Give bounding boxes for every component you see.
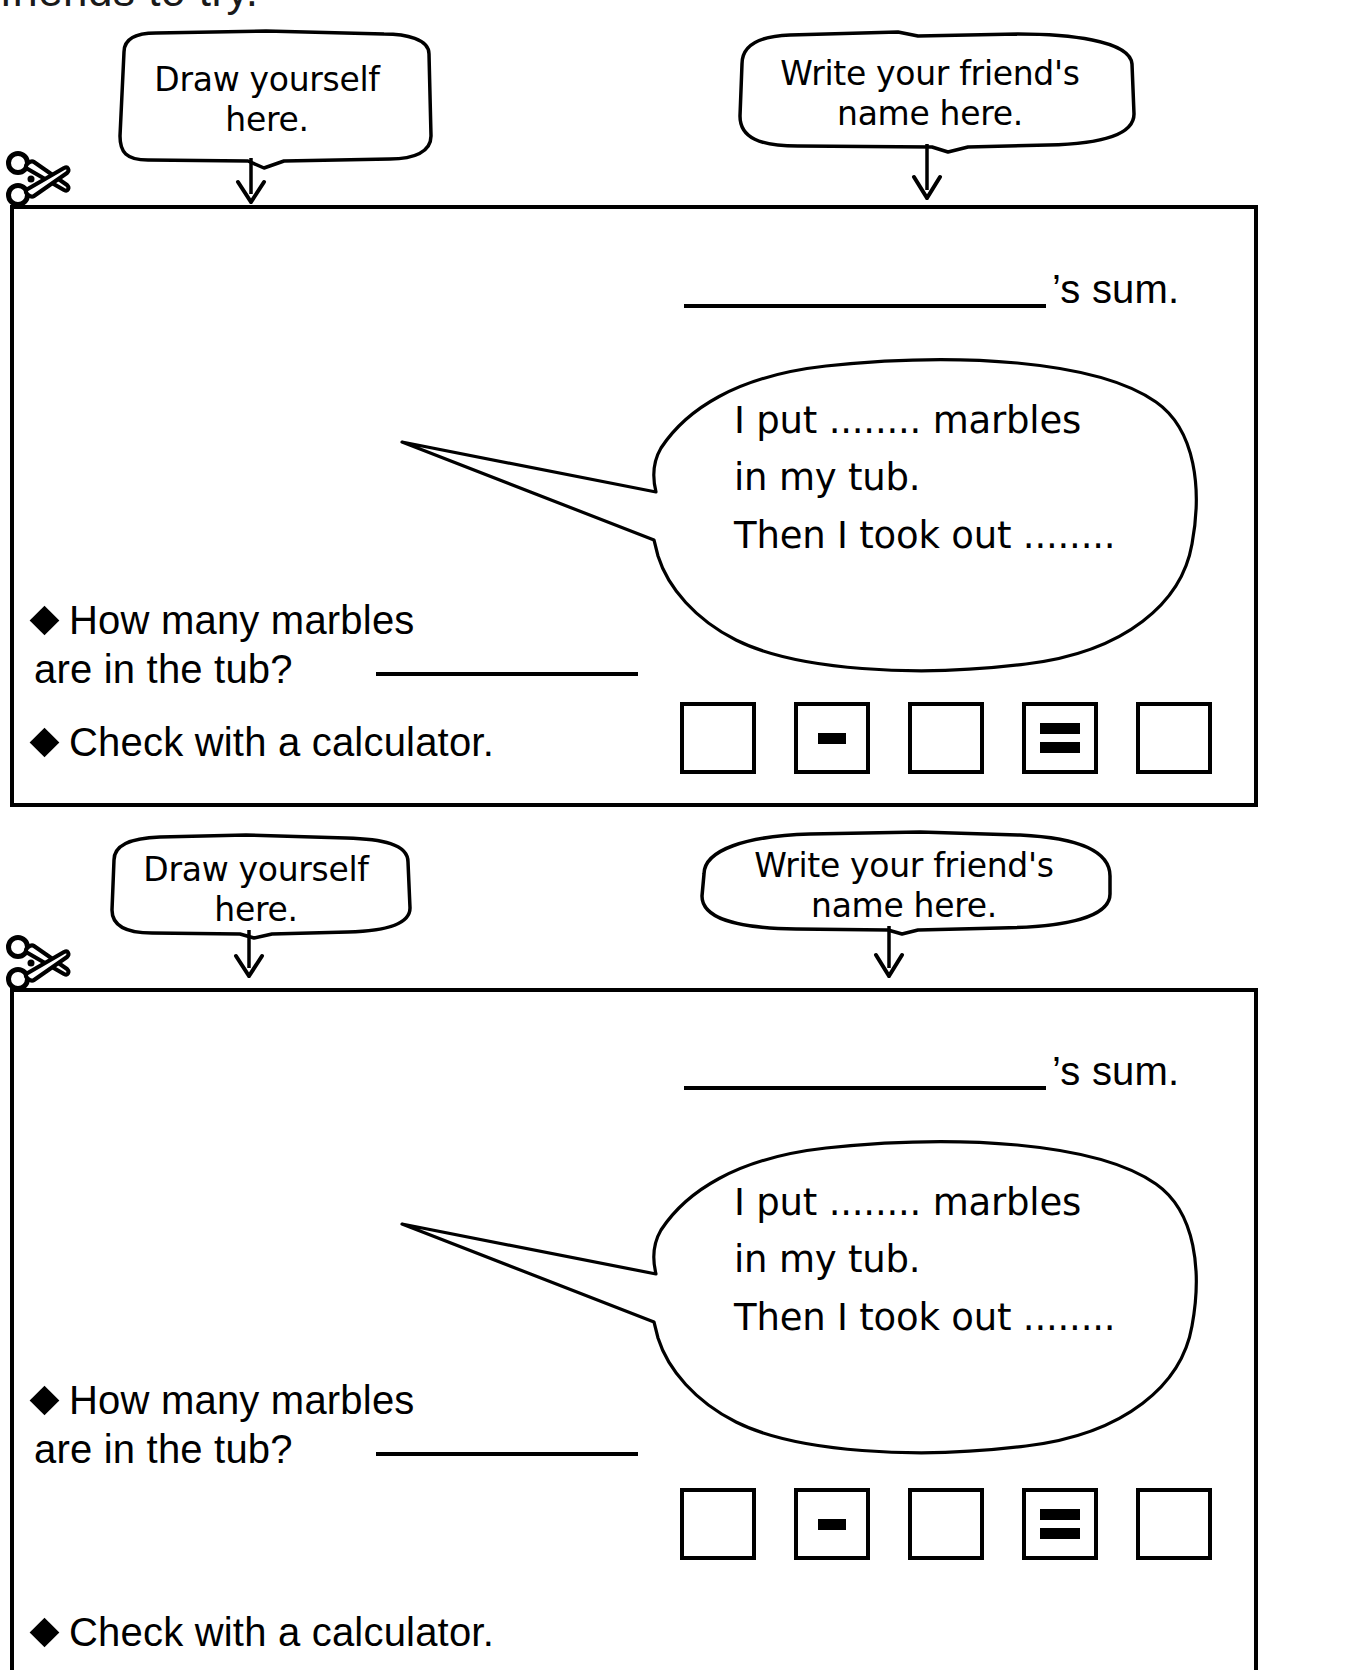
balloon-line-1: I put ........ marbles [734, 399, 1081, 442]
check-calculator-line-2: Check with a calculator. [34, 1608, 494, 1657]
question-line-2a: How many marbles [34, 1376, 415, 1425]
sum-line-row-1: ’s sum. [684, 270, 1179, 308]
question-text-1a: How many marbles [69, 598, 415, 642]
draw-yourself-callout-1: Draw yourself here. [98, 28, 436, 168]
name-callout-arrow-1 [906, 144, 948, 204]
calc-key-minus[interactable] [794, 702, 870, 774]
down-arrow-icon [868, 926, 910, 978]
worksheet-page: friends to try. Draw yourself here. Writ… [0, 0, 1346, 1670]
balloon-line-3: Then I took out ........ [734, 514, 1115, 557]
name-callout-arrow-2 [868, 926, 910, 982]
calculator-key-row-2 [680, 1488, 1212, 1560]
equals-icon [1040, 723, 1080, 753]
diamond-bullet-icon [30, 1386, 60, 1416]
sum-line-row-2: ’s sum. [684, 1052, 1179, 1090]
calc-key-minus[interactable] [794, 1488, 870, 1560]
calc-key-blank-3[interactable] [1136, 1488, 1212, 1560]
page-header-sliver: friends to try. [0, 0, 420, 16]
speech-balloon-1: I put ........ marbles in my tub. Then I… [396, 340, 1206, 690]
callout-line-2: name here. [811, 886, 997, 925]
diamond-bullet-icon [30, 606, 60, 636]
calc-key-equals[interactable] [1022, 702, 1098, 774]
answer-blank-1[interactable] [376, 672, 638, 676]
callout-line-2: here. [225, 100, 308, 139]
balloon-text-2: I put ........ marbles in my tub. Then I… [734, 1174, 1115, 1346]
calc-key-blank-3[interactable] [1136, 702, 1212, 774]
calc-key-blank-2[interactable] [908, 1488, 984, 1560]
minus-icon [818, 1519, 846, 1530]
question-text-2a: How many marbles [69, 1378, 415, 1422]
check-calculator-text-1: Check with a calculator. [69, 720, 494, 764]
down-arrow-icon [228, 930, 270, 978]
friend-name-callout-1: Write your friend's name here. [718, 26, 1142, 152]
check-calculator-line-1: Check with a calculator. [34, 718, 494, 767]
friend-name-blank-1[interactable] [684, 304, 1046, 308]
balloon-line-2: in my tub. [734, 456, 920, 499]
scissors-icon [4, 934, 76, 992]
callout-line-2: here. [214, 890, 297, 929]
callout-line-1: Draw yourself [154, 60, 379, 99]
scissors-icon-2 [4, 934, 76, 992]
sum-label-2: ’s sum. [1052, 1052, 1179, 1090]
balloon-line-3: Then I took out ........ [734, 1296, 1115, 1339]
diamond-bullet-icon [30, 1618, 60, 1648]
question-text-1b: are in the tub? [34, 647, 293, 691]
question-line-1a: How many marbles [34, 596, 415, 645]
draw-yourself-callout-text-2: Draw yourself here. [96, 832, 416, 931]
draw-yourself-callout-text-1: Draw yourself here. [98, 28, 436, 141]
scissors-icon [4, 150, 76, 208]
draw-yourself-callout-2: Draw yourself here. [96, 832, 416, 938]
speech-balloon-2: I put ........ marbles in my tub. Then I… [396, 1122, 1206, 1472]
answer-blank-2[interactable] [376, 1452, 638, 1456]
friend-name-blank-2[interactable] [684, 1086, 1046, 1090]
draw-callout-arrow-1 [230, 158, 272, 208]
friend-name-callout-text-1: Write your friend's name here. [718, 26, 1142, 135]
calc-key-blank-1[interactable] [680, 702, 756, 774]
down-arrow-icon [906, 144, 948, 200]
callout-line-1: Write your friend's [780, 54, 1079, 93]
question-text-2b: are in the tub? [34, 1427, 293, 1471]
check-calculator-text-2: Check with a calculator. [69, 1610, 494, 1654]
equals-icon [1040, 1509, 1080, 1539]
question-line-1b: are in the tub? [34, 645, 293, 694]
callout-line-1: Write your friend's [754, 846, 1053, 885]
balloon-line-2: in my tub. [734, 1238, 920, 1281]
down-arrow-icon [230, 158, 272, 204]
calc-key-equals[interactable] [1022, 1488, 1098, 1560]
calculator-key-row-1 [680, 702, 1212, 774]
callout-line-1: Draw yourself [143, 850, 368, 889]
friend-name-callout-2: Write your friend's name here. [690, 828, 1118, 934]
minus-icon [818, 733, 846, 744]
sum-label-1: ’s sum. [1052, 270, 1179, 308]
calc-key-blank-1[interactable] [680, 1488, 756, 1560]
balloon-line-1: I put ........ marbles [734, 1181, 1081, 1224]
calc-key-blank-2[interactable] [908, 702, 984, 774]
draw-callout-arrow-2 [228, 930, 270, 982]
balloon-text-1: I put ........ marbles in my tub. Then I… [734, 392, 1115, 564]
friend-name-callout-text-2: Write your friend's name here. [690, 828, 1118, 927]
question-line-2b: are in the tub? [34, 1425, 293, 1474]
scissors-icon-1 [4, 150, 76, 208]
diamond-bullet-icon [30, 728, 60, 758]
callout-line-2: name here. [837, 94, 1023, 133]
